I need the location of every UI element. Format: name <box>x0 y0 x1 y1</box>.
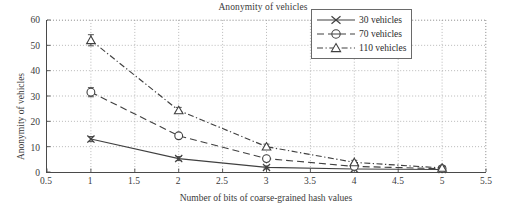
legend-item-70-vehicles[interactable]: 70 vehicles <box>316 27 406 41</box>
x-tick-label: 2.5 <box>216 176 228 186</box>
y-tick-label: 60 <box>0 15 46 25</box>
legend-item-30-vehicles[interactable]: 30 vehicles <box>316 13 406 27</box>
x-tick-label: 2 <box>176 176 181 186</box>
x-tick-label: 3.5 <box>304 176 316 186</box>
x-tick-label: 5 <box>440 176 445 186</box>
chart-figure: Anonymity of vehicles Anonymity of vehic… <box>0 0 526 216</box>
y-tick-label: 30 <box>0 92 46 102</box>
y-tick-label: 10 <box>0 143 46 153</box>
x-tick-label: 5.5 <box>480 176 492 186</box>
y-tick-label: 40 <box>0 66 46 76</box>
x-axis-label: Number of bits of coarse-grained hash va… <box>46 193 486 203</box>
y-tick-label: 50 <box>0 41 46 51</box>
x-tick-label: 3 <box>264 176 269 186</box>
legend-sample-solid-x-icon <box>316 13 356 27</box>
legend-item-110-vehicles[interactable]: 110 vehicles <box>316 41 406 55</box>
legend-sample-dashdot-triangle-icon <box>316 41 356 55</box>
legend-sample-dashed-circle-icon <box>316 27 356 41</box>
x-tick-label: 1.5 <box>128 176 140 186</box>
x-tick-label: 0.5 <box>40 176 52 186</box>
legend-label: 110 vehicles <box>356 43 406 53</box>
legend-label: 30 vehicles <box>356 15 402 25</box>
chart-legend: 30 vehicles 70 vehicles 110 vehicles <box>311 9 412 59</box>
data-series-layer <box>47 20 486 172</box>
legend-label: 70 vehicles <box>356 29 402 39</box>
plot-area <box>46 20 486 173</box>
x-tick-label: 1 <box>88 176 93 186</box>
x-tick-label: 4.5 <box>392 176 404 186</box>
x-tick-label: 4 <box>352 176 357 186</box>
y-tick-label: 20 <box>0 117 46 127</box>
chart-title: Anonymity of vehicles <box>0 2 526 12</box>
